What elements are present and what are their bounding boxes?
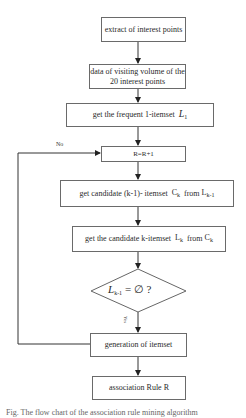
from-text: from [187, 234, 203, 244]
node-label: R=R+1 [133, 149, 154, 159]
math-ck: Ck [205, 233, 213, 245]
node-candidate-itemset: get candidate (k-1)- itemset Ck from Lk-… [60, 180, 234, 207]
yes-label: Yes [123, 316, 128, 323]
node-generation-itemset: generation of itemset [90, 333, 187, 357]
decision-condition: Lk-1 = ∅ ? [108, 283, 151, 296]
figure-caption: Fig. The flow chart of the association r… [6, 408, 198, 417]
node-association-rule: association Rule R [92, 376, 186, 400]
math-lk: Lk [175, 233, 183, 245]
node-label: get the candidate k-itemset [85, 234, 171, 244]
from-text: from [184, 189, 200, 199]
node-label: get the frequent 1-itemset [93, 110, 175, 120]
node-r-increment: R=R+1 [101, 146, 186, 162]
math-lk1: Lk-1 [202, 188, 215, 200]
node-visiting-volume: data of visiting volume of the 20 intere… [89, 64, 186, 89]
node-label: generation of itemset [105, 340, 173, 350]
no-label: No [56, 141, 63, 147]
math-ck: Ck [172, 188, 180, 200]
node-label: get candidate (k-1)- itemset [80, 189, 168, 199]
node-label: data of visiting volume of the 20 intere… [90, 67, 185, 87]
node-extract: extract of interest points [101, 17, 186, 42]
node-label: association Rule R [109, 383, 169, 393]
node-frequent-1-itemset: get the frequent 1-itemset L1 [66, 103, 214, 127]
node-label: extract of interest points [105, 25, 183, 35]
math-l1: L1 [179, 109, 188, 122]
node-k-itemset: get the candidate k-itemset Lk from Ck [72, 226, 226, 252]
